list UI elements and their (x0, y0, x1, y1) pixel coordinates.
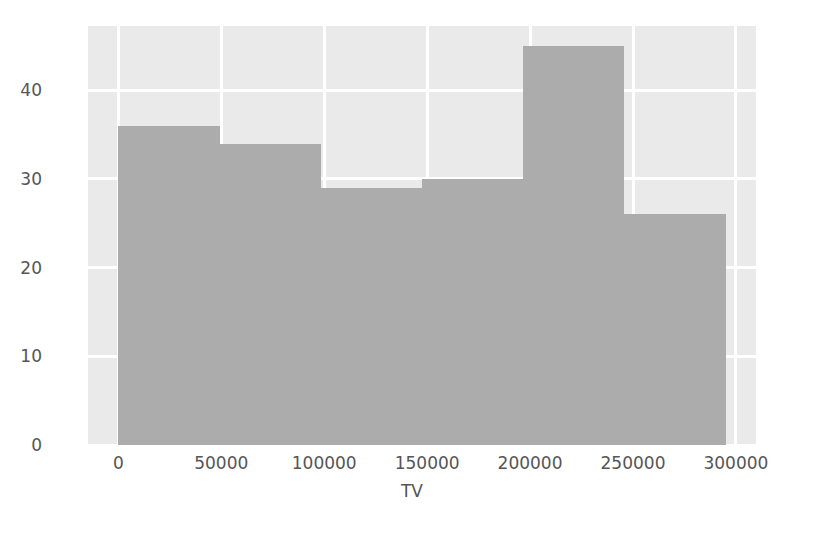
x-tick-label: 250000 (601, 455, 666, 472)
histogram-figure: 010203040 050000100000150000200000250000… (0, 0, 814, 542)
x-tick-label: 0 (113, 455, 124, 472)
bar (321, 188, 422, 445)
x-tick-label: 50000 (194, 455, 248, 472)
x-tick-label: 100000 (292, 455, 357, 472)
bar (624, 214, 725, 445)
y-tick-label: 10 (0, 348, 42, 365)
y-tick-label: 30 (0, 170, 42, 187)
x-axis-label-text: TV (401, 483, 423, 500)
bar (422, 179, 523, 445)
y-tick-label: 20 (0, 259, 42, 276)
x-tick-label: 200000 (498, 455, 563, 472)
x-tick-label: 150000 (395, 455, 460, 472)
x-tick-label: 300000 (703, 455, 768, 472)
y-tick-label: 40 (0, 82, 42, 99)
x-axis-label: TV (0, 483, 814, 500)
y-tick-label: 0 (0, 437, 42, 454)
plot-area (88, 26, 756, 445)
bar (220, 144, 321, 446)
bar-series (88, 26, 756, 445)
bar (523, 46, 624, 445)
bar (118, 126, 219, 445)
